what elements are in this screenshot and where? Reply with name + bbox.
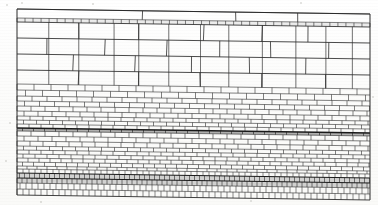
- bed-joint-line: [17, 146, 370, 151]
- course-12-brick: [17, 111, 370, 121]
- perpend-joint: [73, 55, 74, 71]
- course-7-brick: [17, 84, 370, 95]
- bed-joint-line: [17, 54, 370, 59]
- bed-joint-line: [17, 136, 370, 141]
- masonry-wall-elevation-figure: Masonry wall elevation Measured elevatio…: [0, 0, 378, 205]
- course-9-brick: [17, 96, 370, 106]
- course-6-plain: [17, 70, 370, 88]
- course-19-brick: [17, 141, 370, 151]
- perpend-joint: [203, 25, 204, 41]
- bed-joint-line: [17, 38, 370, 43]
- bed-joint-line: [17, 90, 370, 95]
- course-4-plain: [17, 38, 370, 58]
- perpend-joint: [135, 56, 136, 72]
- bed-joint-line: [17, 70, 370, 75]
- bed-joint-line: [17, 84, 370, 89]
- course-14-brick: [17, 120, 370, 129]
- course-20-brick: [17, 146, 370, 155]
- bed-joint-line: [17, 111, 370, 116]
- bed-joint-line: [17, 158, 370, 163]
- bed-joint-line: [17, 116, 370, 121]
- bed-joint-line: [17, 120, 370, 125]
- course-8-brick: [17, 90, 370, 101]
- course-18-brick: [17, 136, 370, 146]
- course-group: [17, 9, 370, 200]
- course-11-brick: [17, 106, 370, 116]
- wall-drawing: [0, 0, 378, 205]
- bed-joint-line: [17, 106, 370, 111]
- bed-joint-line: [17, 141, 370, 146]
- perpend-joint: [105, 39, 106, 55]
- frame-top: [17, 9, 370, 14]
- perpend-joint: [166, 40, 167, 56]
- upper-perpend-group: [49, 22, 353, 88]
- course-30-tile: [17, 189, 370, 200]
- bed-joint-line: [17, 162, 370, 167]
